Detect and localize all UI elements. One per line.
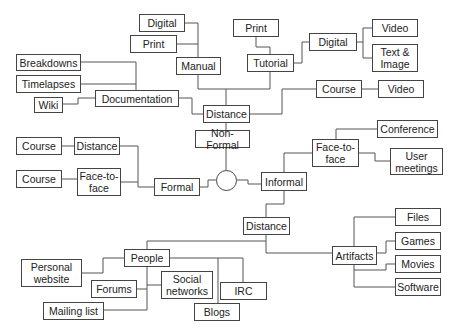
node-print-manual: Print <box>130 35 177 53</box>
taxonomy-diagram: Non-FormalDistanceManualDigitalPrintDocu… <box>0 0 453 332</box>
connector-tutorial-digital_tutorial <box>294 42 309 63</box>
node-distance-nf: Distance <box>203 105 250 123</box>
connector-tutorial-print_tutorial <box>256 37 270 54</box>
connector-informal-distance_informal <box>266 191 284 217</box>
node-wiki: Wiki <box>34 97 63 113</box>
node-course-f2: Course <box>16 170 62 188</box>
connector-distance_nf-course_nf <box>250 89 316 114</box>
node-course-nf: Course <box>316 80 362 98</box>
node-timelapses: Timelapses <box>16 75 81 93</box>
connector-artifacts-files <box>354 217 395 246</box>
node-face-formal: Face-to- face <box>77 168 121 196</box>
hub-circle <box>216 170 237 191</box>
connector-manual-digital_manual <box>185 23 198 57</box>
connector-documentation-breakdowns <box>81 62 136 90</box>
node-manual: Manual <box>176 57 221 75</box>
connector-hub-formal <box>200 180 216 187</box>
node-non-formal: Non-Formal <box>195 130 250 148</box>
node-social-networks: Social networks <box>161 271 213 299</box>
node-print-tutorial: Print <box>233 19 279 37</box>
node-documentation: Documentation <box>95 90 179 107</box>
node-informal: Informal <box>261 172 307 191</box>
connector-informal-face_informal <box>284 153 312 172</box>
node-blogs: Blogs <box>194 303 240 321</box>
node-software: Software <box>395 278 441 296</box>
node-distance-formal: Distance <box>74 137 120 155</box>
node-distance-informal: Distance <box>243 217 290 235</box>
connector-distance_informal-artifacts <box>266 235 332 253</box>
connector-distance_nf-tutorial <box>226 72 270 89</box>
connector-digital_tutorial-video_digital <box>357 28 372 42</box>
connector-hub-informal <box>237 180 261 184</box>
connector-people-irc <box>218 258 243 282</box>
connector-face_informal-conference <box>336 129 377 139</box>
connector-documentation-wiki <box>63 98 95 104</box>
connector-formal-distance_formal <box>120 146 154 187</box>
connector-face_informal-user_meetings <box>359 153 390 161</box>
node-video-course: Video <box>378 80 424 98</box>
connector-distance_nf-manual <box>198 75 226 105</box>
connector-distance_informal-people <box>147 241 266 249</box>
node-artifacts: Artifacts <box>332 246 377 265</box>
node-mailing-list: Mailing list <box>43 302 104 320</box>
node-games: Games <box>395 232 441 250</box>
node-people: People <box>124 249 170 267</box>
node-formal: Formal <box>154 178 200 196</box>
node-digital-tutorial: Digital <box>309 33 357 51</box>
node-digital-manual: Digital <box>139 14 185 32</box>
node-course-f1: Course <box>16 137 62 155</box>
node-movies: Movies <box>395 255 441 273</box>
connector-digital_tutorial-text_image <box>363 42 372 58</box>
node-forums: Forums <box>91 280 137 298</box>
node-files: Files <box>395 208 441 226</box>
node-irc: IRC <box>220 282 267 300</box>
node-text-image: Text & Image <box>372 44 418 72</box>
connector-distance_nf-documentation <box>179 98 203 114</box>
node-user-meetings: User meetings <box>390 148 443 175</box>
connector-artifacts-software <box>354 270 395 287</box>
node-face-informal: Face-to- face <box>312 139 359 167</box>
connector-artifacts-games <box>377 241 395 253</box>
node-video-digital: Video <box>372 19 418 37</box>
node-breakdowns: Breakdowns <box>16 54 81 71</box>
connector-people-personal_website <box>82 258 124 273</box>
node-conference: Conference <box>377 120 438 138</box>
node-personal-website: Personal website <box>21 259 82 287</box>
node-tutorial: Tutorial <box>247 54 294 72</box>
